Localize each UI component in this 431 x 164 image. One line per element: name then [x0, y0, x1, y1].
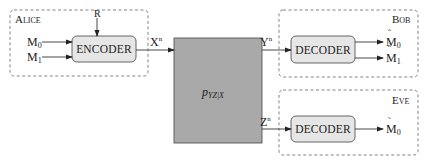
eve-output-m0-tilde: M˜0 [386, 123, 401, 137]
channel-output-zn: Zn [260, 116, 271, 128]
randomness-label: R [94, 9, 101, 19]
channel-input-xn: Xn [150, 36, 162, 48]
channel-distribution-label: pYZ|X [202, 85, 224, 100]
eve-decoder-label: DECODER [291, 116, 355, 142]
input-m1: M1 [27, 51, 42, 65]
bob-label: Bob [392, 14, 410, 25]
bob-output-m1-hat: Mˆ1 [386, 52, 401, 66]
eve-label: Eve [392, 95, 409, 106]
input-m0: M0 [27, 36, 42, 50]
bob-decoder-label: DECODER [291, 36, 355, 63]
channel-output-yn: Yn [260, 36, 272, 48]
encoder-label: ENCODER [72, 36, 136, 62]
alice-label: Alice [15, 14, 41, 25]
diagram-canvas [0, 0, 431, 164]
